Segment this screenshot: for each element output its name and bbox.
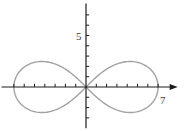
x-axis-tick-label-7: 7 xyxy=(160,94,166,106)
x-axis-arrowhead-icon xyxy=(170,84,178,90)
lemniscate-plot-figure: 5 7 xyxy=(0,0,185,131)
y-axis-tick-label-5: 5 xyxy=(76,30,82,42)
plot-canvas: 5 7 xyxy=(0,0,185,131)
